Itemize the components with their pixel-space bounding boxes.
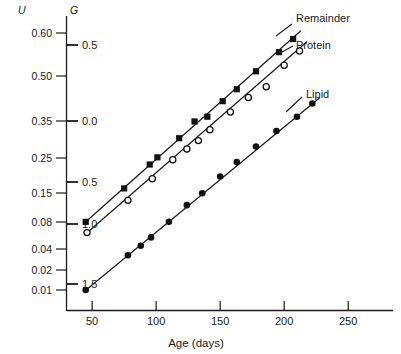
- data-point-remainder: [234, 86, 240, 92]
- data-point-protein: [149, 176, 155, 182]
- u-tick-label: 0.35: [32, 115, 53, 127]
- lipid-leader: [286, 97, 302, 112]
- data-point-protein: [281, 62, 287, 68]
- data-point-protein: [125, 197, 131, 203]
- data-point-remainder: [121, 185, 127, 191]
- data-point-lipid: [199, 190, 206, 197]
- u-tick-label: 0.25: [32, 152, 53, 164]
- x-axis-tick-labels: 50100150200250: [86, 315, 357, 327]
- x-tick-label: 200: [275, 315, 293, 327]
- u-tick-label: 0.50: [32, 70, 53, 82]
- g-axis-tick-labels: 0.50.00.51.01.5: [82, 39, 97, 290]
- data-point-lipid: [294, 113, 301, 120]
- x-tick-label: 150: [211, 315, 229, 327]
- data-points: [82, 36, 315, 293]
- data-point-lipid: [125, 252, 132, 259]
- u-axis-ticks: [56, 33, 67, 290]
- series-label-lipid: Lipid: [306, 88, 329, 100]
- x-tick-label: 100: [147, 315, 165, 327]
- data-point-protein: [207, 127, 213, 133]
- data-point-protein: [84, 230, 90, 236]
- data-point-remainder: [154, 154, 160, 160]
- x-axis-title: Age (days): [168, 337, 224, 349]
- data-point-protein: [170, 157, 176, 163]
- g-tick-label: 0.5: [82, 176, 97, 188]
- u-axis-header: U: [18, 4, 26, 16]
- u-axis-tick-labels: 0.600.500.350.250.150.080.040.020.01: [32, 27, 53, 296]
- data-point-lipid: [166, 219, 173, 226]
- data-point-remainder: [220, 98, 226, 104]
- chart-figure: U G 0.600.500.350.250.150.080.040.020.01…: [0, 0, 401, 354]
- protein-leader: [282, 46, 293, 52]
- chart-svg: U G 0.600.500.350.250.150.080.040.020.01…: [0, 0, 401, 354]
- data-point-lipid: [148, 234, 155, 241]
- data-point-lipid: [253, 143, 260, 150]
- data-point-protein: [184, 146, 190, 152]
- x-axis-ticks: [92, 301, 348, 311]
- x-tick-label: 250: [339, 315, 357, 327]
- data-point-remainder: [147, 161, 153, 167]
- u-tick-label: 0.04: [32, 243, 53, 255]
- data-point-lipid: [273, 128, 280, 135]
- u-tick-label: 0.60: [32, 27, 53, 39]
- x-tick-label: 50: [86, 315, 98, 327]
- data-point-protein: [263, 84, 269, 90]
- data-point-protein: [227, 109, 233, 115]
- data-point-remainder: [191, 118, 197, 124]
- g-axis-header: G: [70, 4, 78, 16]
- data-point-remainder: [253, 68, 259, 74]
- series-label-remainder: Remainder: [296, 12, 350, 24]
- remainder-leader: [276, 24, 292, 36]
- u-tick-label: 0.08: [32, 216, 53, 228]
- fit-lines: [84, 31, 320, 292]
- data-point-lipid: [309, 100, 316, 107]
- data-point-lipid: [217, 173, 224, 180]
- data-point-remainder: [204, 114, 210, 120]
- data-point-remainder: [276, 49, 282, 55]
- g-tick-label: 0.5: [82, 39, 97, 51]
- data-point-remainder: [176, 135, 182, 141]
- data-point-protein: [245, 94, 251, 100]
- series-label-protein: Protein: [296, 39, 331, 51]
- g-axis-ticks: [67, 45, 79, 284]
- data-point-protein: [195, 138, 201, 144]
- data-point-lipid: [137, 242, 144, 249]
- data-point-lipid: [233, 159, 240, 166]
- data-point-remainder: [83, 219, 89, 225]
- data-point-lipid: [82, 287, 89, 294]
- u-tick-label: 0.02: [32, 264, 53, 276]
- fit-line-remainder: [84, 31, 300, 223]
- u-tick-label: 0.01: [32, 284, 53, 296]
- u-tick-label: 0.15: [32, 187, 53, 199]
- g-tick-label: 0.0: [82, 115, 97, 127]
- data-point-lipid: [184, 202, 191, 209]
